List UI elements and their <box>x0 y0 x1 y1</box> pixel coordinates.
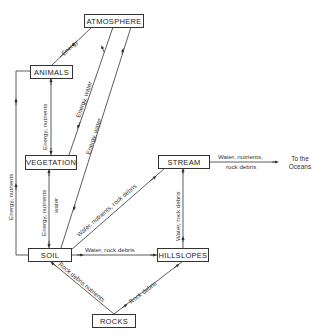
label-stream-oceans-1: Water, nutrients, <box>218 153 263 160</box>
label-atmosphere-soil: Energy, water <box>84 117 102 155</box>
label-soil-vegetation-2: water <box>52 198 59 214</box>
node-atmosphere: ATMOSPHERE <box>84 14 144 28</box>
node-stream: STREAM <box>158 155 210 169</box>
label-animals-soil: Energy, nutrients <box>7 174 14 220</box>
node-animals: ANIMALS <box>30 65 73 79</box>
edge-rocks-soil <box>50 261 114 314</box>
label-soil-hillslopes: Water, rock debris <box>85 246 135 253</box>
label-stream-oceans-2: rock debris <box>226 163 256 170</box>
label-rocks-hillslopes: Rock debris <box>127 280 157 305</box>
node-hillslopes: HILLSLOPES <box>157 248 209 262</box>
label-soil-vegetation-1: Energy, nutrients <box>40 190 47 236</box>
node-rocks: ROCKS <box>92 314 136 328</box>
oceans-label-line2: Oceans <box>280 163 320 171</box>
node-soil: SOIL <box>28 248 72 262</box>
label-animals-atmosphere: Energy <box>60 38 80 57</box>
node-vegetation: VEGETATION <box>25 155 77 170</box>
label-vegetation-animals: Energy, nutrients <box>41 104 48 150</box>
oceans-label: To the Oceans <box>280 155 320 171</box>
label-hillslopes-stream: Water, rock debris <box>174 191 181 241</box>
label-rocks-soil: Rock debris nutrients <box>57 260 106 303</box>
oceans-label-line1: To the <box>280 155 320 163</box>
label-soil-stream: Water, nutrients, rock debris <box>75 182 138 238</box>
